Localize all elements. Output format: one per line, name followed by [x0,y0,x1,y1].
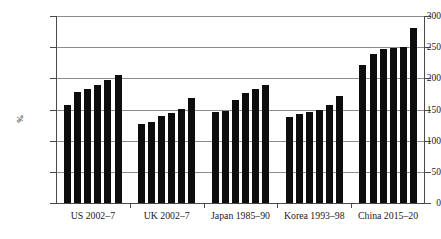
bar [178,109,185,203]
bar [188,98,195,203]
bar [94,85,101,203]
bar [296,114,303,203]
bar [115,75,122,203]
bar [64,105,71,203]
bar [306,112,313,203]
bar [84,89,91,203]
group-label: China 2015–20 [351,209,425,222]
group-label: US 2002–7 [56,209,130,222]
bar [262,85,269,203]
bar [242,93,249,203]
bar-chart: % 050100150200250300 US 2002–7UK 2002–7J… [0,0,441,239]
bar [252,89,259,203]
bar [158,116,165,203]
bar [148,122,155,203]
bar [138,124,145,203]
bar [410,28,417,203]
group-label: Korea 1993–98 [277,209,351,222]
y-axis-title: % [10,109,30,129]
bar [390,48,397,203]
group-separator-tick [204,203,205,208]
bars-layer [56,16,425,203]
bar [232,100,239,203]
bar [212,112,219,203]
bar [222,111,229,203]
bar [104,80,111,203]
group-separator-tick [130,203,131,208]
group-label: Japan 1985–90 [204,209,278,222]
bar [316,110,323,203]
bar [380,49,387,203]
bar [400,47,407,203]
bar [168,113,175,203]
bar [359,65,366,203]
bar [326,105,333,203]
group-separator-tick [277,203,278,208]
bar [336,96,343,203]
bar [370,54,377,203]
bar [74,92,81,203]
group-label: UK 2002–7 [130,209,204,222]
group-separator-tick [351,203,352,208]
bar [286,117,293,203]
